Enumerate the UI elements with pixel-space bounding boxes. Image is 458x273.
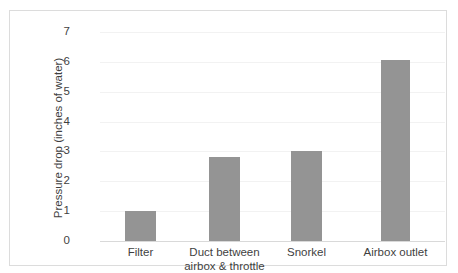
y-axis-tick-label: 1 (40, 205, 70, 217)
gridline (100, 32, 445, 33)
y-axis-tick-label: 3 (40, 146, 70, 158)
bar (209, 157, 240, 241)
y-axis-tick-label: 6 (40, 56, 70, 68)
axis-baseline (100, 241, 445, 242)
bar (381, 60, 410, 241)
y-axis-tick-label: 4 (40, 116, 70, 128)
y-axis-tick-label: 5 (40, 86, 70, 98)
y-axis-tick-label: 7 (40, 26, 70, 38)
bar (291, 151, 322, 241)
plot-area (100, 32, 445, 241)
y-axis-tick-label: 2 (40, 176, 70, 188)
bar (125, 211, 156, 241)
y-axis-tick-label: 0 (40, 235, 70, 247)
x-axis-category-label: Airbox outlet (326, 245, 458, 259)
chart-frame: Pressure drop (inches of water) 01234567… (9, 10, 447, 266)
